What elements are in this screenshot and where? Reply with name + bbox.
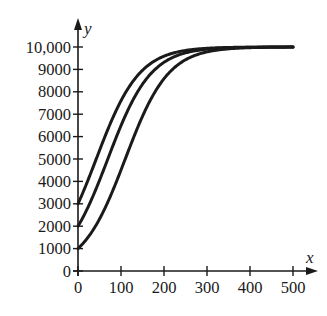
y-axis-label: y (82, 19, 92, 38)
curves (78, 47, 293, 249)
x-tick-label: 300 (195, 278, 220, 297)
y-tick-label: 4000 (38, 172, 71, 191)
y-tick-label: 9000 (38, 60, 71, 79)
x-axis-label: x (305, 248, 314, 267)
x-tick-label: 400 (238, 278, 263, 297)
x-tick-label: 200 (152, 278, 177, 297)
x-tick-label: 0 (74, 278, 82, 297)
y-tick-label: 5000 (38, 150, 71, 169)
y-axis-arrow-icon (74, 18, 82, 30)
y-tick-label: 3000 (38, 194, 71, 213)
y-tick-label: 6000 (38, 127, 71, 146)
y-ticks: 010002000300040005000600070008000900010,… (26, 38, 83, 281)
x-tick-label: 100 (109, 278, 134, 297)
y-tick-label: 7000 (38, 105, 71, 124)
y-tick-label: 10,000 (26, 38, 71, 57)
y-tick-label: 2000 (38, 217, 71, 236)
x-axis-arrow-icon (306, 267, 318, 275)
y-tick-label: 0 (63, 262, 71, 281)
x-tick-label: 500 (281, 278, 306, 297)
curve-y0-3000 (78, 47, 293, 204)
logistic-growth-chart: y x 010002000300040005000600070008000900… (0, 0, 327, 316)
y-tick-label: 1000 (38, 239, 71, 258)
y-tick-label: 8000 (38, 82, 71, 101)
curve-y0-1000 (78, 47, 293, 249)
